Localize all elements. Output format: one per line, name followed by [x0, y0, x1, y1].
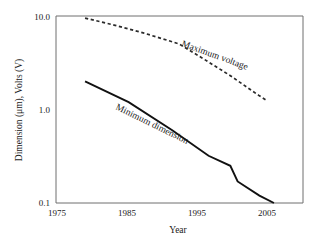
x-tick-label-1985: 1985	[118, 208, 137, 218]
y-tick-label-0-1: 0.1	[39, 198, 50, 208]
plot-frame	[56, 16, 303, 203]
x-tick-label-1995: 1995	[188, 208, 207, 218]
x-tick-label-2005: 2005	[258, 208, 277, 218]
y-axis-title: Dimension (μm), Volts (V)	[14, 59, 25, 161]
line-chart: 10.0 1.0 0.1 1975 1985 1995 2005 Year Di…	[0, 0, 319, 242]
y-tick-label-10: 10.0	[34, 12, 50, 22]
minimum-dimension-label: Minimum dimension	[114, 102, 190, 146]
chart-page: 10.0 1.0 0.1 1975 1985 1995 2005 Year Di…	[0, 0, 319, 242]
x-tick-label-1975: 1975	[48, 208, 67, 218]
x-axis-title: Year	[169, 225, 187, 235]
y-tick-label-1: 1.0	[39, 105, 51, 115]
